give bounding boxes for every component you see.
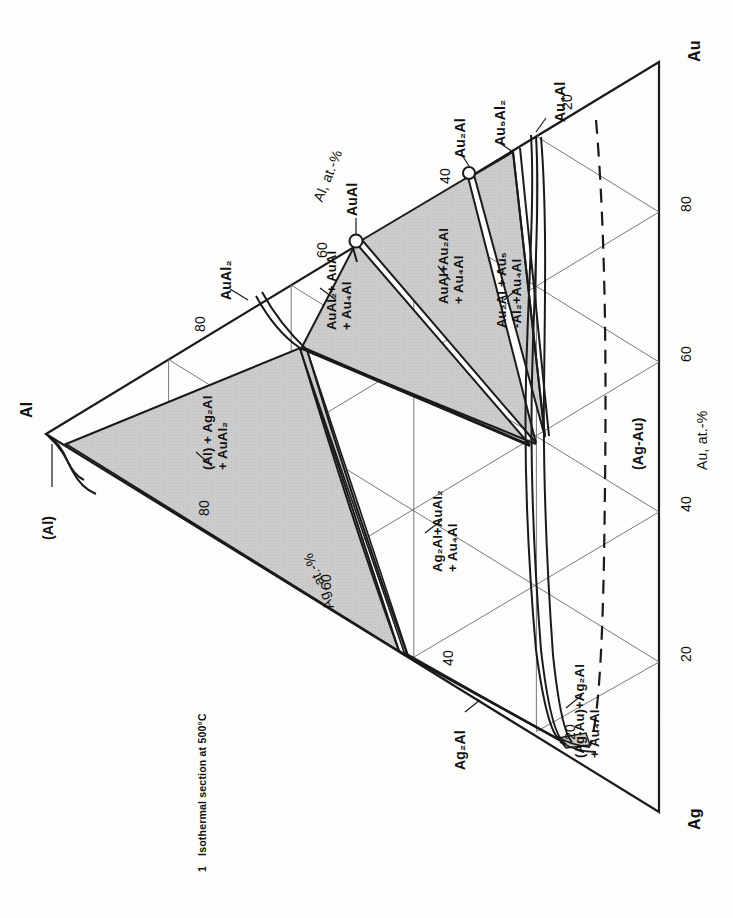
compound-label-agau: (Ag-Au) [630,417,647,470]
phase-field-label-al-ag2al-aual2: (Al) + Ag₂Al + AuAl₂ [200,396,231,471]
caption-text: Isothermal section at 500°C [196,713,208,856]
phase-line-1: AuAl+Au₂Al [436,228,451,304]
tick-ag-60: 60 [318,574,335,590]
phase-line-1: Au₂Al + Au₅ [494,252,509,328]
tick-au-60: 60 [678,346,695,362]
ternary-phase-diagram [0,0,733,918]
caption-number: 1 [196,866,208,872]
compound-label-al-terminal: (Al) [40,516,57,540]
corner-label-al: Al [18,402,37,418]
phase-field-label-agau-ag2al-au4al: (Ag-Au)+Ag₂Al + Au₄Al [572,664,603,758]
compound-label-ag2al: Ag₂Al [452,730,469,770]
phase-field-label-ag2al-aual2-au4al: Ag₂Al+AuAl₂ + Au₄Al [430,490,461,572]
phase-line-1: Ag₂Al+AuAl₂ [430,490,445,572]
phase-line-2: -Al₂+Au₄Al [509,252,524,328]
compound-label-aual2: AuAl₂ [218,260,235,300]
tick-al-80: 80 [192,316,209,332]
compound-label-au5al2: Au₅Al₂ [492,99,509,146]
phase-line-2: + Au₄Al [339,251,354,330]
compound-label-au4al: Au₄Al [552,82,569,122]
tick-au-20: 20 [678,646,695,662]
tick-au-40: 40 [678,496,695,512]
tick-ag-80: 80 [196,500,213,516]
phase-line-2: + AuAl₂ [215,396,230,471]
compound-label-au2al: Au₂Al [452,118,469,158]
corner-label-au: Au [686,40,705,62]
figure-caption: 1Isothermal section at 500°C [196,713,208,872]
phase-line-1: (Ag-Au)+Ag₂Al [572,664,587,758]
tick-ag-40: 40 [440,650,457,666]
agau-solvus-dashed-line [590,120,606,746]
phase-line-2: + Au₄Al [445,490,460,572]
phase-line-1: (Al) + Ag₂Al [200,396,215,471]
phase-field-label-au2al-au5al2-au4al: Au₂Al + Au₅ -Al₂+Au₄Al [494,252,525,328]
phase-line-1: AuAl₂+ AuAl [324,251,339,330]
tick-au-80: 80 [678,196,695,212]
corner-label-ag: Ag [686,808,705,830]
tick-al-40: 40 [437,168,454,184]
axis-title-au: Au, at.-% [694,411,711,470]
compound-label-aual: AuAl [344,183,361,216]
phase-field-label-aual2-aual-au4al: AuAl₂+ AuAl + Au₄Al [324,251,355,330]
phase-line-2: + Au₄Al [587,664,602,758]
phase-line-2: + Au₄Al [451,228,466,304]
figure-page: Al Au Ag Al, at.-% Au, at.-% Ag, at.-% 8… [0,0,733,918]
phase-field-label-aual-au2al-au4al: AuAl+Au₂Al + Au₄Al [436,228,467,304]
field-al-ag2al-aual2-shape [66,348,399,651]
